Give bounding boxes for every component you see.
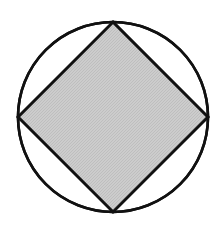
figure-svg-canvas — [0, 0, 220, 225]
geometry-figure — [0, 0, 220, 225]
